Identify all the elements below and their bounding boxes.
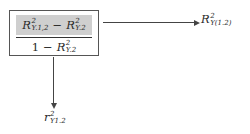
- arrow-right-label-sub: Y(1.2): [210, 20, 231, 27]
- numerator-term1-sub: Y.1,2: [31, 25, 48, 32]
- denominator-constant: 1: [32, 40, 39, 54]
- denominator-term-sub: Y.2: [66, 47, 76, 54]
- numerator-term2-sub: Y.2: [75, 25, 85, 32]
- arrow-right-head-icon: [194, 20, 200, 26]
- arrow-right-label: R2Y(1.2): [201, 12, 231, 27]
- numerator-highlighted: R2Y.1,2 − R2Y.2: [16, 15, 92, 35]
- denominator-operator: −: [43, 40, 53, 54]
- arrow-right-label-base: R: [201, 12, 210, 26]
- formula-box: R2Y.1,2 − R2Y.2 1 − R2Y.2: [9, 10, 99, 56]
- arrow-down-label: r2Y1.2: [44, 110, 66, 125]
- arrow-down-label-sub: Y1.2: [50, 118, 66, 125]
- denominator-term-base: R: [57, 40, 66, 54]
- arrow-right-line: [103, 22, 197, 23]
- arrow-down-head-icon: [51, 103, 57, 109]
- denominator: 1 − R2Y.2: [16, 38, 92, 55]
- arrow-down-label-base: r: [44, 110, 50, 124]
- numerator-operator: −: [53, 18, 63, 32]
- numerator-term2-base: R: [66, 18, 75, 32]
- arrow-down-line: [53, 57, 54, 105]
- numerator-term1-base: R: [22, 18, 31, 32]
